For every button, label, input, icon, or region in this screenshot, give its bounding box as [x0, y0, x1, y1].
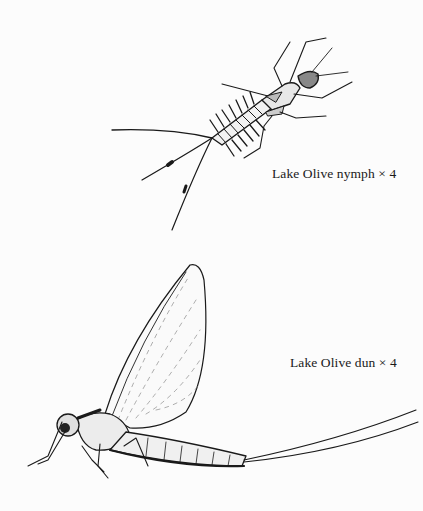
dun-illustration-icon	[0, 0, 423, 511]
illustration-page: Lake Olive nymph × 4 Lake Olive dun × 4	[0, 0, 423, 511]
nymph-caption: Lake Olive nymph × 4	[272, 166, 396, 182]
dun-caption: Lake Olive dun × 4	[290, 355, 397, 371]
